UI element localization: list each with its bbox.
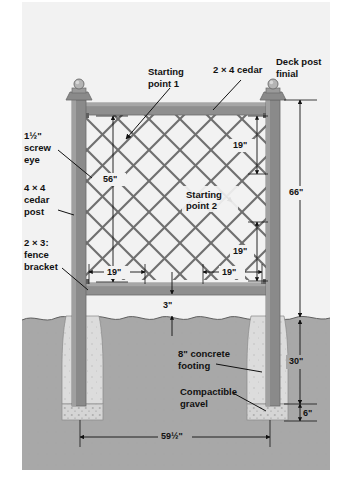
deck-post-finial-label-line1: Deck post: [276, 56, 322, 67]
cedar-2x4-label: 2 × 4 cedar: [213, 64, 263, 75]
fence-bracket-label-line1: 2 × 3:: [24, 237, 49, 248]
left-bottom-fence-bracket: [86, 279, 89, 284]
dimension-overall-width-label: 59½": [161, 431, 183, 441]
bottom-rail-highlight: [78, 283, 278, 286]
left-top-fence-bracket: [86, 113, 89, 118]
compactible-gravel-label-line1: Compactible: [180, 386, 237, 397]
right-deck-post-finial: [268, 79, 278, 89]
cedar-post-label-line3: post: [24, 206, 45, 217]
cedar-post-label-line1: 4 × 4: [24, 182, 46, 193]
concrete-footing-label-line1: 8" concrete: [178, 348, 230, 359]
screw-eye-label-line1: 1½": [24, 130, 42, 141]
dimension-19-lower-right-label: 19": [233, 246, 247, 256]
dimension-66-label: 66": [289, 187, 303, 197]
right-top-fence-bracket: [263, 113, 266, 118]
left-finial-highlight: [76, 81, 80, 85]
dimension-30-label: 30": [289, 356, 303, 366]
starting-point-2-label-line2: point 2: [186, 200, 217, 211]
fence-bracket-label-line2: fence: [24, 249, 49, 260]
top-rail-highlight: [78, 103, 278, 106]
diagram-canvas: 56" 19" 19" 19" 19" 3" 66": [0, 0, 353, 496]
deck-post-finial-label-line2: finial: [276, 68, 298, 79]
starting-point-2-label-line1: Starting: [186, 189, 222, 200]
compactible-gravel-label-line2: gravel: [180, 398, 208, 409]
concrete-footing-label-line2: footing: [178, 360, 210, 371]
left-post-highlight: [72, 100, 76, 406]
screw-eye-label-line3: eye: [24, 154, 40, 165]
dimension-19-upper-right-label: 19": [233, 140, 247, 150]
dimension-56-label: 56": [103, 174, 117, 184]
dimension-6-label: 6": [303, 408, 312, 418]
left-deck-post-finial: [74, 79, 84, 89]
dimension-19-bottom-left-label: 19": [107, 267, 121, 277]
right-post-highlight: [266, 100, 270, 406]
dimension-19-bottom-right-label: 19": [222, 267, 236, 277]
right-bottom-fence-bracket: [263, 279, 266, 284]
starting-point-1-label-line1: Starting: [148, 66, 184, 77]
starting-point-1-label-line2: point 1: [148, 78, 180, 89]
trellis-construction-diagram: 56" 19" 19" 19" 19" 3" 66": [0, 0, 353, 496]
cedar-post-label-line2: cedar: [24, 194, 50, 205]
fence-bracket-label-line3: bracket: [24, 261, 59, 272]
right-finial-highlight: [270, 81, 274, 85]
dimension-3-label: 3": [163, 300, 172, 310]
screw-eye-label-line2: screw: [24, 142, 52, 153]
